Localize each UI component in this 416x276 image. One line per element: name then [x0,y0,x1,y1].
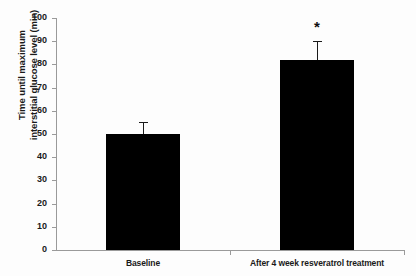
y-axis-tick-label-50: 50 [37,128,47,138]
plot-area: 0102030405060708090100 * BaselineAfter 4… [56,18,405,250]
error-bar-stem-1 [317,41,318,60]
x-axis-label-1: After 4 week resveratrol treatment [250,258,384,268]
y-axis-tick-80: 80 [52,64,57,65]
y-axis-title-line-1: Time until maximum [16,30,28,120]
y-axis-tick-40: 40 [52,157,57,158]
y-axis-tick-70: 70 [52,88,57,89]
y-axis-tick-60: 60 [52,111,57,112]
y-axis-tick-10: 10 [52,227,57,228]
y-axis-tick-0: 0 [52,250,57,251]
bar-1 [280,60,354,250]
y-axis-tick-label-0: 0 [42,244,47,254]
y-axis-tick-label-90: 90 [37,35,47,45]
y-axis-tick-label-100: 100 [32,12,47,22]
y-axis-title-line-2: interstitial glucose level (min) [28,10,40,140]
y-axis-tick-label-60: 60 [37,105,47,115]
x-axis-tick-middle [230,250,231,255]
x-axis-label-0: Baseline [126,258,160,268]
y-axis-tick-90: 90 [52,41,57,42]
y-axis-tick-30: 30 [52,180,57,181]
y-axis-tick-label-10: 10 [37,221,47,231]
error-bar-cap-1 [313,41,322,42]
error-bar-stem-0 [143,122,144,134]
y-axis-tick-label-30: 30 [37,174,47,184]
bar-0 [106,134,180,250]
significance-marker-0: * [314,19,320,34]
y-axis-tick-50: 50 [52,134,57,135]
error-bar-cap-0 [139,122,148,123]
y-axis-tick-label-40: 40 [37,151,47,161]
y-axis-tick-20: 20 [52,204,57,205]
y-axis-tick-100: 100 [52,18,57,19]
y-axis-tick-label-20: 20 [37,198,47,208]
y-axis-tick-label-70: 70 [37,82,47,92]
bar-chart: Time until maximum interstitial glucose … [0,0,416,276]
x-axis-tick-right [404,250,405,255]
y-axis-tick-label-80: 80 [37,58,47,68]
